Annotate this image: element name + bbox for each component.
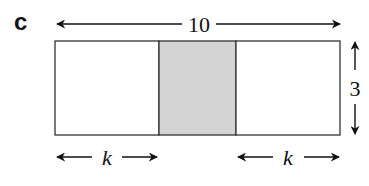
right-section [236, 41, 340, 135]
right-k-dimension: k [238, 145, 339, 170]
height-label: 3 [350, 76, 361, 101]
left-k-label: k [102, 145, 113, 170]
height-dimension: 3 [350, 42, 361, 134]
width-label: 10 [188, 12, 210, 37]
rectangle-diagram: 10 3 k k [0, 0, 369, 186]
right-k-label: k [283, 145, 294, 170]
shaded-section [159, 41, 236, 135]
width-dimension: 10 [57, 12, 340, 37]
left-section [55, 41, 159, 135]
left-k-dimension: k [57, 145, 157, 170]
